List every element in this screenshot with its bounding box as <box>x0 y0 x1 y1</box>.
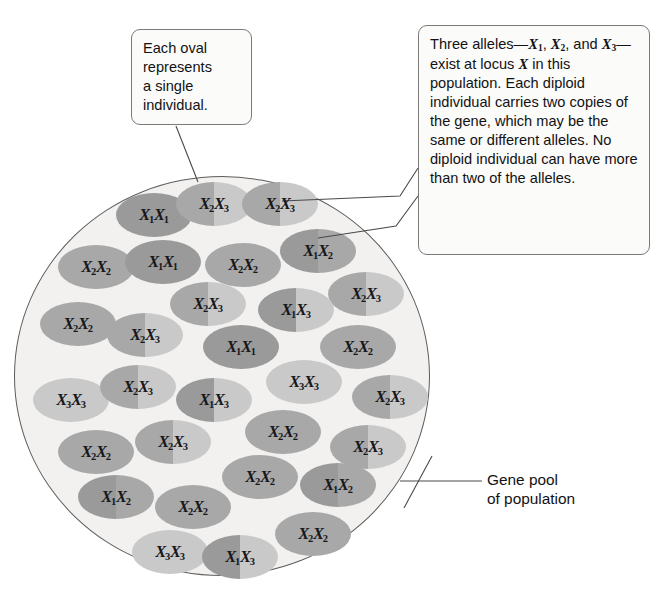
genotype-label: X1X1 <box>148 252 178 272</box>
each-oval-callout: Each oval represents a single individual… <box>131 29 252 125</box>
genotype-label: X1X3 <box>199 390 229 410</box>
genotype-label: X2X3 <box>130 325 160 345</box>
genotype-label: X2X2 <box>178 497 208 517</box>
genotype-label: X2X2 <box>245 467 275 487</box>
genotype-label: X2X3 <box>375 387 405 407</box>
genotype-label: X1X2 <box>101 487 131 507</box>
genotype-label: X1X2 <box>323 475 353 495</box>
genotype-label: X2X2 <box>343 337 373 357</box>
genotype-label: X3X3 <box>155 542 185 562</box>
genotype-label: X3X3 <box>289 372 319 392</box>
callout-left-line-4: individual. <box>143 96 241 115</box>
genotype-label: X2X3 <box>265 194 295 214</box>
genotype-label: X2X3 <box>353 437 383 457</box>
genotype-label: X2X2 <box>228 255 258 275</box>
genotype-label: X1X2 <box>303 241 333 261</box>
gene-pool-label: Gene pool of population <box>487 470 575 509</box>
callout-left-line-3: a single <box>143 77 241 96</box>
genotype-label: X1X1 <box>226 337 256 357</box>
genotype-label: X2X3 <box>123 377 153 397</box>
genotype-label: X2X2 <box>298 524 328 544</box>
genotype-label: X2X2 <box>63 314 93 334</box>
genotype-label: X2X2 <box>81 442 111 462</box>
genotype-label: X1X3 <box>225 547 255 567</box>
genotype-label: X1X1 <box>139 205 169 225</box>
three-alleles-callout: Three alleles—X1, X2, and X3—exist at lo… <box>418 25 650 255</box>
genotype-label: X2X3 <box>351 284 381 304</box>
genotype-label: X2X2 <box>268 422 298 442</box>
genotype-label: X2X3 <box>193 294 223 314</box>
genotype-label: X2X3 <box>199 194 229 214</box>
callout-left-line-1: Each oval <box>143 39 241 58</box>
genotype-label: X1X3 <box>281 300 311 320</box>
genotype-label: X2X2 <box>81 257 111 277</box>
genotype-label: X2X3 <box>158 432 188 452</box>
genotype-label: X3X3 <box>56 390 86 410</box>
three-alleles-callout-text: Three alleles—X1, X2, and X3—exist at lo… <box>430 36 638 186</box>
callout-left-line-2: represents <box>143 58 241 77</box>
